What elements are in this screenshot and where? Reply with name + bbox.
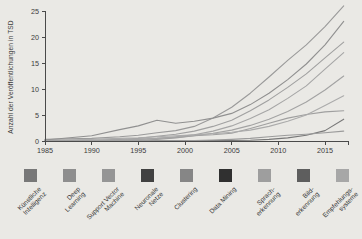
legend-swatch-empfehlungssysteme	[336, 169, 349, 182]
legend-item-spracherkennung: Sprach- erkennung	[258, 169, 271, 182]
legend-item-deep-learning: Deep Learning	[63, 169, 76, 182]
legend-item-bilderkennung: Bild- erkennung	[297, 169, 310, 182]
legend-item-data-mining: Data Mining	[219, 169, 232, 182]
legend-item-k-nstliche-intelligenz: Künstliche Intelligenz	[24, 169, 37, 182]
legend-swatch-data-mining	[219, 169, 232, 182]
legend-swatch-bilderkennung	[297, 169, 310, 182]
legend: Künstliche IntelligenzDeep LearningSuppo…	[0, 0, 362, 239]
legend-item-support-vector-machine: Support Vector Machine	[102, 169, 115, 182]
legend-item-empfehlungssysteme: Empfehlungs- systeme	[336, 169, 349, 182]
legend-item-neuronale-netze: Neuronale Netze	[141, 169, 154, 182]
legend-swatch-deep-learning	[63, 169, 76, 182]
scanned-chart-page: Anzahl der Veröffentlichungen in TSD 051…	[0, 0, 362, 239]
legend-swatch-clustering	[180, 169, 193, 182]
legend-swatch-spracherkennung	[258, 169, 271, 182]
legend-swatch-k-nstliche-intelligenz	[24, 169, 37, 182]
legend-swatch-support-vector-machine	[102, 169, 115, 182]
legend-item-clustering: Clustering	[180, 169, 193, 182]
legend-swatch-neuronale-netze	[141, 169, 154, 182]
